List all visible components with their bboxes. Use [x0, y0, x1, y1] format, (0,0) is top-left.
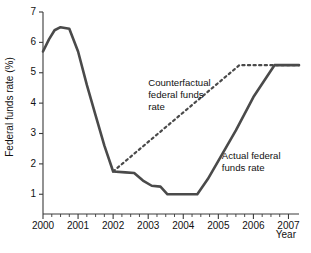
x-tick-label: 2004 — [172, 220, 195, 231]
x-tick-label: 2002 — [102, 220, 125, 231]
y-tick-label: 2 — [30, 158, 36, 169]
federal-funds-rate-chart: Federal funds rate (%) 1234567 200020012… — [0, 0, 311, 253]
y-tick-label: 5 — [30, 66, 36, 77]
y-tick-label: 7 — [30, 6, 36, 17]
x-tick-label: 2000 — [32, 220, 55, 231]
y-tick-label: 1 — [30, 188, 36, 199]
x-tick-label: 2003 — [137, 220, 160, 231]
y-tick-label: 6 — [30, 36, 36, 47]
y-axis-title-group: Federal funds rate (%) — [4, 57, 15, 157]
annotation-group: Counterfactualfederal fundsrateActual fe… — [148, 77, 280, 173]
x-tick-label: 2001 — [67, 220, 90, 231]
x-axis-title: Year — [276, 229, 297, 240]
x-tick-label: 2005 — [207, 220, 230, 231]
y-axis-title: Federal funds rate (%) — [4, 57, 15, 157]
y-tick-group: 1234567 — [30, 6, 43, 199]
y-tick-label: 4 — [30, 97, 36, 108]
chart-canvas: Federal funds rate (%) 1234567 200020012… — [0, 0, 311, 253]
actual-label: Actual federalfunds rate — [222, 150, 281, 173]
x-tick-label: 2006 — [242, 220, 265, 231]
counterfactual-label: Counterfactualfederal fundsrate — [148, 77, 210, 112]
y-tick-label: 3 — [30, 127, 36, 138]
